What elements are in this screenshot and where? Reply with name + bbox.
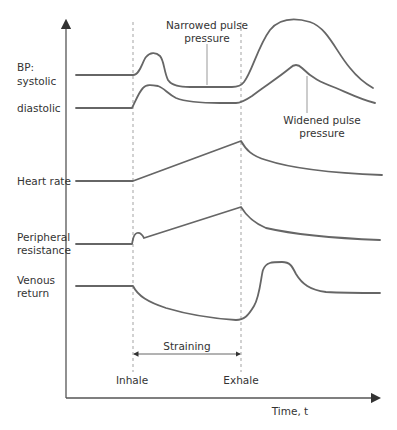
annotation-widened-2: pressure: [299, 127, 344, 139]
annotation-exhale: Exhale: [223, 374, 258, 386]
annotation-narrowed-2: pressure: [184, 32, 229, 44]
x-axis-label: Time, t: [271, 405, 309, 417]
label-bp: BP:: [17, 61, 34, 73]
valsalva-diagram: BP: systolic diastolic Heart rate Periph…: [0, 0, 397, 430]
label-diastolic: diastolic: [17, 102, 61, 114]
annotation-widened-1: Widened pulse: [283, 114, 360, 126]
peripheral-resistance-curve: [76, 207, 380, 244]
annotation-narrowed-1: Narrowed pulse: [166, 19, 248, 31]
label-venous: Venous: [17, 274, 55, 286]
venous-return-curve: [76, 262, 380, 320]
annotation-inhale: Inhale: [116, 374, 148, 386]
heart-rate-curve: [76, 141, 382, 181]
label-peripheral: Peripheral: [17, 231, 70, 243]
label-systolic: systolic: [17, 75, 57, 87]
label-return: return: [17, 287, 49, 299]
label-resistance: resistance: [17, 244, 71, 256]
annotation-straining: Straining: [163, 340, 210, 352]
label-heart-rate: Heart rate: [17, 175, 71, 187]
